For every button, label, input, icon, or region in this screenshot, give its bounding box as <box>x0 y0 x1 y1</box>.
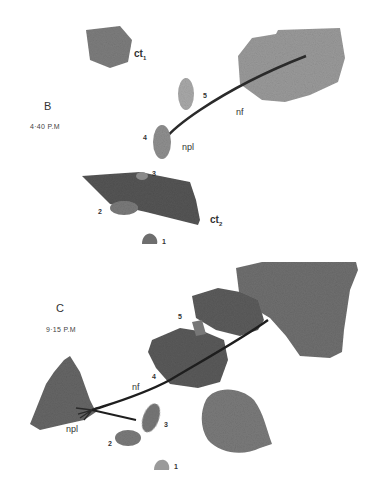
label-cell-3-b: 3 <box>152 170 156 177</box>
panel-time-b: 4·40 P.M <box>30 123 60 130</box>
cell-2-c <box>115 430 141 446</box>
cell-cluster-left <box>148 328 228 388</box>
cell-1-c <box>154 460 169 470</box>
label-cell-2-b: 2 <box>98 208 102 215</box>
cell-left-triangle <box>30 356 96 430</box>
label-npl-c: npl <box>66 424 78 434</box>
label-nf-c: nf <box>132 382 140 392</box>
label-cell-2-c: 2 <box>108 440 112 447</box>
figure-illustration <box>0 0 377 496</box>
label-ct1: ct1 <box>134 48 146 61</box>
cell-bottom-right <box>202 390 272 453</box>
cell-1 <box>142 233 157 244</box>
cell-ct2 <box>82 172 200 225</box>
label-cell-5-b: 5 <box>203 92 207 99</box>
panel-c <box>30 262 358 470</box>
label-cell-1-b: 1 <box>162 238 166 245</box>
cell-ct1 <box>86 26 132 68</box>
label-cell-5-c: 5 <box>178 313 182 320</box>
nerve-cell-body <box>238 28 345 102</box>
cell-5 <box>178 78 194 110</box>
label-cell-1-c: 1 <box>174 463 178 470</box>
cell-3-c <box>138 401 163 435</box>
label-cell-3-c: 3 <box>164 421 168 428</box>
label-cell-4-c: 4 <box>152 373 156 380</box>
cell-4 <box>153 125 171 159</box>
cell-2 <box>110 201 138 215</box>
label-nf-b: nf <box>236 107 244 117</box>
label-cell-4-b: 4 <box>143 134 147 141</box>
label-npl-b: npl <box>182 142 194 152</box>
cell-3 <box>136 172 148 180</box>
panel-label-b: B <box>44 100 51 112</box>
panel-time-c: 9·15 P.M <box>46 326 76 333</box>
panel-b <box>82 26 345 244</box>
panel-label-c: C <box>56 302 64 314</box>
label-ct2: ct2 <box>210 214 222 227</box>
